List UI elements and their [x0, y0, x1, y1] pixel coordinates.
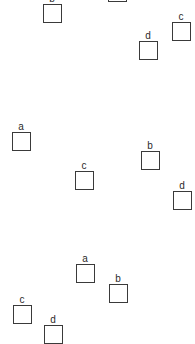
node-box-c — [75, 171, 94, 190]
node-label-a: a — [75, 254, 95, 264]
node-label-b: b — [140, 141, 160, 151]
node-box-d — [44, 325, 63, 344]
node-label-d: d — [138, 31, 158, 41]
node-label-d: d — [172, 181, 192, 191]
node-box-c — [13, 305, 32, 324]
node-box-b — [141, 151, 160, 170]
node-box-a — [12, 132, 31, 151]
node-box-b — [43, 4, 62, 23]
node-box-c — [172, 22, 191, 41]
node-label-b: b — [108, 274, 128, 284]
node-box-d — [173, 191, 192, 210]
node-label-c: c — [12, 295, 32, 305]
node-label-a: a — [11, 122, 31, 132]
node-box-b — [109, 284, 128, 303]
node-box-partial — [108, 0, 127, 2]
node-label-c: c — [171, 12, 191, 22]
node-label-d: d — [43, 315, 63, 325]
node-label-c: c — [74, 161, 94, 171]
node-box-a — [76, 264, 95, 283]
node-box-d — [139, 41, 158, 60]
